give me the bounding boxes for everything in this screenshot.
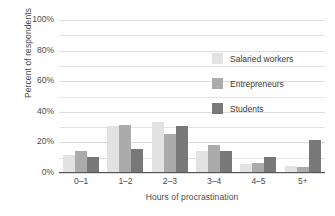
bar-group <box>59 20 103 172</box>
bar[interactable] <box>107 126 119 172</box>
bar[interactable] <box>220 151 232 172</box>
bar[interactable] <box>119 125 131 172</box>
bar[interactable] <box>264 157 276 172</box>
bar[interactable] <box>152 122 164 172</box>
legend-label: Salaried workers <box>230 54 293 64</box>
gridline <box>59 173 325 174</box>
x-axis-tick-labels: 0–11–22–33–44–55+ <box>59 176 325 186</box>
x-axis-tick: 5+ <box>281 176 325 186</box>
y-axis-tick: 80% <box>20 46 54 55</box>
bar[interactable] <box>176 126 188 172</box>
x-axis-title: Hours of procrastination <box>59 192 325 202</box>
bar[interactable] <box>75 151 87 172</box>
legend-swatch <box>212 53 223 64</box>
y-axis-tick: 100% <box>20 15 54 24</box>
legend-swatch <box>212 78 223 89</box>
x-axis-tick: 4–5 <box>236 176 280 186</box>
y-axis-tick: 40% <box>20 107 54 116</box>
x-axis-tick: 3–4 <box>192 176 236 186</box>
legend-item[interactable]: Entrepreneurs <box>212 75 293 92</box>
bar-group <box>103 20 147 172</box>
bar[interactable] <box>87 157 99 172</box>
bar[interactable] <box>63 155 75 172</box>
bar-chart: Percent of respondents 0–11–22–33–44–55+… <box>0 0 335 216</box>
legend-item[interactable]: Students <box>212 100 293 117</box>
legend: Salaried workersEntrepreneursStudents <box>212 50 293 125</box>
legend-label: Students <box>230 104 264 114</box>
legend-label: Entrepreneurs <box>230 79 284 89</box>
bar-group <box>148 20 192 172</box>
bar[interactable] <box>131 149 143 172</box>
bar[interactable] <box>252 163 264 172</box>
y-axis-tick: 0% <box>20 168 54 177</box>
x-axis-tick: 1–2 <box>103 176 147 186</box>
legend-swatch <box>212 103 223 114</box>
x-axis-tick: 0–1 <box>59 176 103 186</box>
x-axis-line <box>59 172 325 173</box>
x-axis-tick: 2–3 <box>148 176 192 186</box>
bar[interactable] <box>164 134 176 172</box>
y-axis-tick: 60% <box>20 76 54 85</box>
y-axis-tick: 20% <box>20 137 54 146</box>
bar[interactable] <box>208 145 220 172</box>
legend-item[interactable]: Salaried workers <box>212 50 293 67</box>
bar[interactable] <box>196 151 208 172</box>
bar[interactable] <box>309 140 321 172</box>
